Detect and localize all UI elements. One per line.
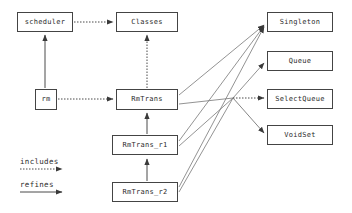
node-rm[interactable]: rm (35, 89, 57, 110)
node-selectqueue-label: SelectQueue (275, 96, 325, 103)
legend-refines-label: refines (20, 181, 54, 189)
node-voidset[interactable]: VoidSet (267, 125, 333, 145)
edge-rmtrans-to-singleton (179, 25, 264, 95)
diagram-canvas: scheduler Classes Singleton Queue Select… (0, 0, 352, 213)
node-singleton[interactable]: Singleton (267, 12, 333, 32)
node-rmtrans-r1-label: RmTrans_r1 (122, 142, 167, 149)
node-rmtrans-label: RmTrans (131, 96, 163, 103)
node-scheduler-label: scheduler (25, 19, 66, 26)
node-queue-label: Queue (289, 58, 312, 65)
node-singleton-label: Singleton (280, 19, 321, 26)
edge-hub-to-voidset (233, 98, 264, 133)
node-rmtrans[interactable]: RmTrans (116, 89, 178, 110)
node-classes[interactable]: Classes (116, 12, 178, 32)
node-rm-label: rm (41, 96, 50, 103)
node-rmtrans-r2-label: RmTrans_r2 (122, 189, 167, 196)
node-scheduler[interactable]: scheduler (17, 12, 73, 32)
node-classes-label: Classes (131, 19, 163, 26)
node-queue[interactable]: Queue (267, 51, 333, 71)
node-rmtrans-r1[interactable]: RmTrans_r1 (112, 135, 178, 155)
node-rmtrans-r2[interactable]: RmTrans_r2 (112, 182, 178, 202)
legend-includes-label: includes (20, 158, 59, 166)
edge-hub-to-queue (233, 63, 264, 98)
edge-rmtransr2-to-hub (179, 98, 233, 192)
node-selectqueue[interactable]: SelectQueue (267, 89, 333, 109)
edge-rmtransr1-to-hub (179, 98, 233, 146)
edge-rmtransr2-to-singleton (179, 27, 264, 187)
edge-rmtransr1-to-singleton (179, 26, 264, 141)
node-voidset-label: VoidSet (284, 132, 316, 139)
